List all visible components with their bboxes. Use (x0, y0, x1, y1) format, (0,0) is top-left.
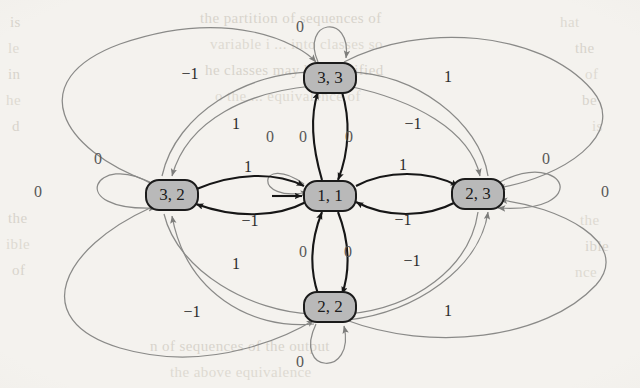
selfloop-23 (498, 172, 560, 208)
edge-label-dn-right-0: 0 (344, 243, 352, 260)
state-diagram-svg: 3, 33, 21, 12, 32, 2 0000000−111−1001−11… (0, 0, 640, 388)
edge-label-bl-neg1: −1 (183, 303, 200, 320)
edge-label-tr-one: 1 (444, 68, 452, 85)
edge-label-up-left-0: 0 (299, 128, 307, 145)
edge-label-east-one: 1 (399, 156, 407, 173)
edge-32-to-11 (194, 176, 304, 190)
edge-label-outer-left: 0 (34, 183, 42, 200)
edge-label-loop-11: 0 (266, 128, 274, 145)
state-node-33[interactable]: 3, 3 (304, 63, 356, 93)
selfloop-22 (311, 324, 346, 363)
state-node-label: 1, 1 (317, 186, 343, 205)
node-group: 3, 33, 21, 12, 32, 2 (146, 63, 504, 322)
state-node-label: 3, 3 (317, 68, 343, 87)
edge-label-east-neg1: −1 (394, 211, 411, 228)
state-node-22[interactable]: 2, 2 (304, 292, 356, 322)
edge-label-loop-22: 0 (296, 353, 304, 370)
edge-label-br-one: 1 (444, 302, 452, 319)
edge-33-to-23-outer (344, 37, 603, 188)
edge-33-to-32 (172, 86, 312, 176)
edge-label-tl-one: 1 (232, 115, 240, 132)
edge-label-dn-left-0: 0 (299, 243, 307, 260)
state-node-label: 2, 3 (465, 184, 491, 203)
edge-label-up-right-0: 0 (345, 128, 353, 145)
selfloop-33 (314, 27, 346, 62)
state-node-11[interactable]: 1, 1 (304, 181, 356, 211)
edge-label-bl-one: 1 (232, 255, 240, 272)
edge-label-west-one: 1 (244, 158, 252, 175)
state-node-32[interactable]: 3, 2 (146, 180, 198, 210)
edge-label-loop-23: 0 (542, 150, 550, 167)
edge-label-tr-neg1: −1 (404, 115, 421, 132)
edge-label-br-neg1: −1 (403, 252, 420, 269)
edge-label-west-neg1: −1 (241, 212, 258, 229)
state-node-23[interactable]: 2, 3 (452, 179, 504, 209)
state-node-label: 3, 2 (159, 185, 185, 204)
figure-canvas: the partition of sequences ofvariable i … (0, 0, 640, 388)
edge-label-tl-neg1: −1 (181, 65, 198, 82)
edge-label-outer-right: 0 (601, 183, 609, 200)
edge-11-to-23 (356, 174, 458, 186)
edge-label-loop-33: 0 (296, 18, 304, 35)
edge-22-to-11 (312, 212, 322, 294)
edge-32-to-22-outer (65, 208, 314, 357)
state-node-label: 2, 2 (317, 297, 343, 316)
edge-label-loop-32: 0 (94, 150, 102, 167)
edge-11-to-33 (313, 92, 322, 180)
